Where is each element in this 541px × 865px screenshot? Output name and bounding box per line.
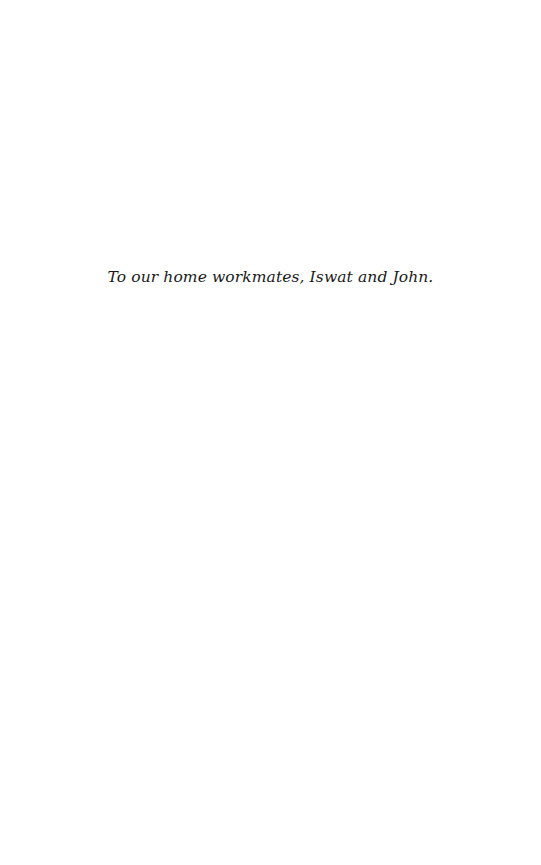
dedication-text: To our home workmates, Iswat and John. xyxy=(0,267,541,287)
document-page: To our home workmates, Iswat and John. xyxy=(0,0,541,865)
